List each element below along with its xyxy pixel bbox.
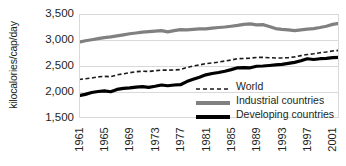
black-line-swatch <box>196 109 230 121</box>
y-axis-title: kilocalories/cap/day <box>0 0 26 130</box>
y-axis-tick-label: 3,000 <box>26 34 74 46</box>
x-axis-tick-labels: 1961196519691973197719811985198919931997… <box>79 118 339 166</box>
x-axis-tick-label: 2001 <box>313 134 346 145</box>
legend-item[interactable]: Industrial countries <box>196 94 344 107</box>
y-axis-tick-label: 2,000 <box>26 86 74 98</box>
legend-item-label: Industrial countries <box>236 95 324 106</box>
x-axis-tick-label-text: 1993 <box>276 127 287 151</box>
y-axis-tick-label: 2,500 <box>26 60 74 72</box>
y-axis-tick-label: 3,500 <box>26 8 74 20</box>
x-axis-tick-label-text: 1981 <box>200 127 211 151</box>
x-axis-tick-label-text: 1977 <box>175 127 186 151</box>
x-axis-tick-label-text: 1961 <box>73 127 84 151</box>
y-axis-title-label: kilocalories/cap/day <box>7 21 19 109</box>
y-axis-tick-labels: 3,5003,0002,5002,0001,500 <box>26 0 78 130</box>
x-axis-tick-label-text: 1965 <box>99 127 110 151</box>
legend-item[interactable]: Developing countries <box>196 108 344 121</box>
legend-item-label: World <box>236 81 263 92</box>
x-axis-tick-label-text: 1969 <box>124 127 135 151</box>
x-axis-tick-label-text: 2001 <box>327 127 338 151</box>
series-line <box>79 23 339 42</box>
gray-line-swatch <box>196 95 230 107</box>
legend-item-label: Developing countries <box>236 109 334 120</box>
x-axis-tick-label-text: 1973 <box>150 127 161 151</box>
x-axis-tick-label-text: 1985 <box>226 127 237 151</box>
x-axis-tick-label-text: 1997 <box>302 127 313 151</box>
chart-container: kilocalories/cap/day 3,5003,0002,5002,00… <box>0 0 346 166</box>
dashed-line-swatch <box>196 81 230 93</box>
chart-legend: WorldIndustrial countriesDeveloping coun… <box>196 80 344 122</box>
x-axis-tick-label-text: 1989 <box>251 127 262 151</box>
y-axis-tick-label: 1,500 <box>26 112 74 124</box>
legend-item[interactable]: World <box>196 80 344 93</box>
